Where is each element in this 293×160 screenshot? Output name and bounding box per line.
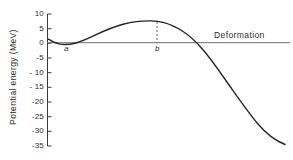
- potential-energy-figure: 10 5 0 -5 - 10 - 15 -20 -25 -30 -35 Pote…: [0, 0, 293, 160]
- y-tick-label-m30: -30: [14, 127, 44, 135]
- y-axis-ticks: [48, 14, 52, 146]
- y-tick-label-m5: -5: [18, 54, 44, 62]
- annotation-b: b: [155, 44, 159, 53]
- y-tick-label-m35: -35: [14, 142, 44, 150]
- y-tick-label-m25: -25: [14, 113, 44, 121]
- y-tick-label-m15: - 15: [14, 83, 44, 91]
- x-axis-title: Deformation: [214, 30, 265, 40]
- y-tick-label-0: 0: [22, 39, 44, 47]
- y-tick-label-5: 5: [22, 25, 44, 33]
- y-tick-label-m10: - 10: [14, 69, 44, 77]
- y-tick-label-10: 10: [22, 10, 44, 18]
- y-tick-label-m20: -20: [14, 98, 44, 106]
- y-axis-title: Potential energy (MeV): [8, 12, 18, 142]
- annotation-a: a: [64, 44, 68, 53]
